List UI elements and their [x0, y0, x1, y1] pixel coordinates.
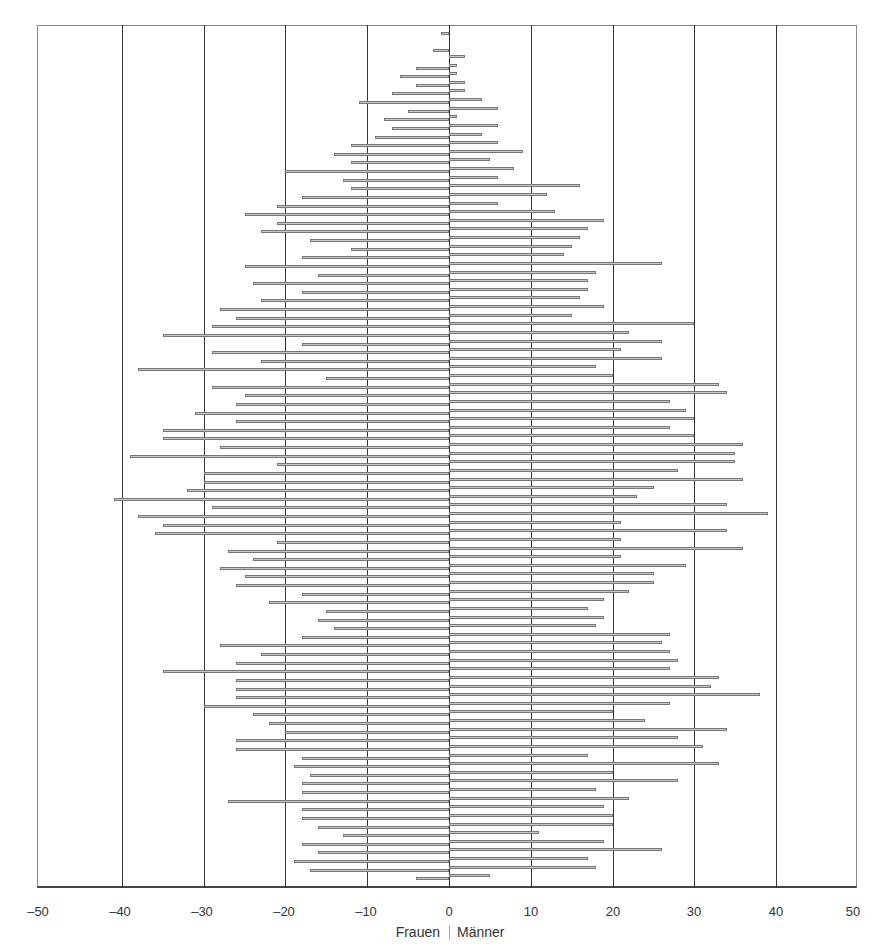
bar-women [408, 110, 449, 113]
caption-separator [449, 925, 450, 940]
bar-men [449, 296, 580, 299]
bar-women [302, 808, 449, 811]
x-tick-label: 10 [524, 904, 538, 919]
bar-women [277, 222, 449, 225]
bar-women [261, 653, 449, 656]
gridline [122, 25, 123, 888]
bar-men [449, 374, 613, 377]
bar-women [285, 731, 449, 734]
bar-women [294, 765, 449, 768]
bar-men [449, 227, 588, 230]
bar-women [302, 791, 449, 794]
bar-men [449, 728, 727, 731]
bar-women [212, 351, 449, 354]
bar-men [449, 150, 523, 153]
bar-women [253, 282, 449, 285]
bar-men [449, 745, 703, 748]
bar-women [236, 679, 449, 682]
bar-women [334, 153, 449, 156]
bar-men [449, 486, 654, 489]
bar-men [449, 771, 613, 774]
bar-women [416, 877, 449, 880]
x-tick-label: –30 [191, 904, 213, 919]
bar-women [310, 869, 449, 872]
bar-women [236, 748, 449, 751]
bar-women [212, 386, 449, 389]
bar-women [220, 308, 449, 311]
bar-men [449, 434, 694, 437]
bar-men [449, 667, 670, 670]
bar-women [294, 860, 449, 863]
bar-men [449, 607, 588, 610]
bar-women [326, 377, 449, 380]
gridline [694, 25, 695, 888]
bar-men [449, 81, 465, 84]
bar-men [449, 788, 596, 791]
bar-men [449, 719, 645, 722]
bar-women [277, 541, 449, 544]
bar-women [245, 575, 450, 578]
bar-men [449, 271, 596, 274]
bar-men [449, 538, 621, 541]
bar-men [449, 581, 654, 584]
bar-men [449, 874, 490, 877]
bar-women [269, 601, 449, 604]
bar-men [449, 98, 482, 101]
bar-women [163, 670, 449, 673]
bar-women [416, 67, 449, 70]
bar-men [449, 685, 711, 688]
bar-men [449, 512, 768, 515]
bar-women [343, 834, 449, 837]
bar-men [449, 650, 670, 653]
bar-men [449, 840, 604, 843]
bar-men [449, 710, 613, 713]
bar-men [449, 495, 637, 498]
bar-men [449, 659, 678, 662]
bar-women [351, 248, 449, 251]
bar-women [204, 472, 449, 475]
bar-men [449, 564, 686, 567]
bar-women [318, 274, 449, 277]
bar-women [351, 161, 449, 164]
bar-women [163, 429, 449, 432]
bar-women [326, 610, 449, 613]
bar-women [310, 239, 449, 242]
bar-men [449, 754, 588, 757]
bar-women [302, 593, 449, 596]
bar-men [449, 305, 604, 308]
bar-men [449, 866, 596, 869]
bar-men [449, 409, 686, 412]
bar-men [449, 641, 662, 644]
x-tick-label: 0 [445, 904, 452, 919]
bar-women [302, 757, 449, 760]
bar-women [392, 127, 449, 130]
bar-women [318, 826, 449, 829]
x-tick-label: –10 [355, 904, 377, 919]
bar-men [449, 245, 572, 248]
bar-men [449, 115, 457, 118]
bar-men [449, 210, 555, 213]
bar-men [449, 314, 572, 317]
bar-men [449, 72, 457, 75]
bar-women [236, 662, 449, 665]
bar-men [449, 219, 604, 222]
bar-men [449, 555, 621, 558]
bar-women [204, 705, 449, 708]
bar-women [416, 84, 449, 87]
bar-men [449, 322, 694, 325]
bar-women [236, 688, 449, 691]
bar-men [449, 184, 580, 187]
bar-men [449, 547, 743, 550]
bar-men [449, 598, 604, 601]
x-tick-label: –40 [109, 904, 131, 919]
bar-men [449, 624, 596, 627]
gridline [531, 25, 532, 888]
x-tick-label: 30 [687, 904, 701, 919]
bar-men [449, 383, 719, 386]
bar-women [195, 412, 449, 415]
bar-men [449, 176, 498, 179]
bar-women [236, 317, 449, 320]
bar-men [449, 702, 670, 705]
bar-men [449, 426, 670, 429]
bar-men [449, 279, 588, 282]
